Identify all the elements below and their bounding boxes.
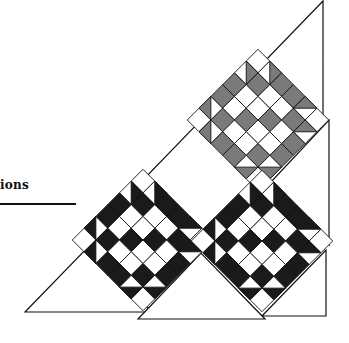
quilt-diagram xyxy=(0,0,349,343)
